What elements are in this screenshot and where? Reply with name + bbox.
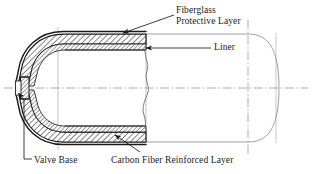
label-liner: Liner	[214, 42, 235, 53]
valve-base-boss	[21, 77, 30, 99]
label-carbon-line1: Carbon Fiber Reinforced Layer	[111, 155, 233, 166]
leader-fiberglass	[123, 15, 174, 33]
valve-base-assembly	[16, 77, 30, 99]
valve-base-bore	[16, 81, 22, 95]
label-fiberglass-line2: Protective Layer	[176, 16, 241, 27]
label-fiberglass-line1: Fiberglass	[176, 5, 241, 16]
label-valve-base-line1: Valve Base	[34, 155, 77, 166]
diagram-root: Fiberglass Protective Layer Liner Valve …	[0, 0, 312, 174]
label-carbon-fiber-reinforced-layer: Carbon Fiber Reinforced Layer	[111, 155, 233, 166]
label-valve-base: Valve Base	[34, 155, 77, 166]
label-fiberglass-protective-layer: Fiberglass Protective Layer	[176, 5, 241, 27]
vessel-cross-section-figure	[0, 0, 312, 174]
label-liner-line1: Liner	[214, 42, 235, 53]
